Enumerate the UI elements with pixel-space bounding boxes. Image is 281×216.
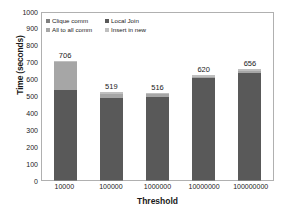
table-row[interactable] — [100, 92, 123, 180]
y-axis-ticks: 10009008007006005004003002001000 — [8, 0, 38, 216]
table-row[interactable] — [192, 75, 215, 180]
bar-segment[interactable] — [238, 73, 261, 180]
y-tick-label: 600 — [12, 76, 38, 83]
x-axis-ticks: 10000100000100000010000000100000000 — [41, 183, 274, 190]
bar-category-slot: 706 — [42, 13, 88, 180]
bar-segment[interactable] — [146, 97, 169, 179]
y-tick-label: 700 — [12, 59, 38, 66]
y-tick-label: 100 — [12, 161, 38, 168]
bar-value-label: 519 — [88, 83, 134, 91]
y-tick-label: 400 — [12, 110, 38, 117]
bar-value-label: 656 — [227, 60, 273, 68]
bar-chart: Time (seconds) 1000900800700600500400300… — [0, 0, 281, 216]
y-tick-label: 500 — [12, 93, 38, 100]
x-tick-label: 100000000 — [227, 183, 274, 190]
bar-category-slot: 519 — [88, 13, 134, 180]
bar-value-label: 706 — [42, 52, 88, 60]
y-tick-label: 1000 — [12, 9, 38, 16]
y-tick-label: 900 — [12, 25, 38, 32]
y-tick-label: 300 — [12, 127, 38, 134]
bar-value-label: 516 — [134, 84, 180, 92]
bar-category-slot: 656 — [227, 13, 273, 180]
y-tick-label: 200 — [12, 144, 38, 151]
bar-value-label: 620 — [181, 66, 227, 74]
bar-segment[interactable] — [192, 78, 215, 179]
bar-category-slot: 620 — [181, 13, 227, 180]
bar-segment[interactable] — [54, 62, 77, 90]
bar-segment[interactable] — [54, 90, 77, 179]
table-row[interactable] — [146, 93, 169, 180]
bar-segment[interactable] — [54, 180, 77, 181]
plot-area: Clique commLocal JoinAll to all commInse… — [41, 12, 274, 181]
x-axis-title: Threshold — [41, 196, 274, 206]
x-tick-label: 100000 — [88, 183, 135, 190]
y-tick-label: 800 — [12, 42, 38, 49]
y-tick-label: 0 — [12, 178, 38, 185]
bar-series-container: 706519516620656 — [42, 13, 273, 180]
x-tick-label: 1000000 — [134, 183, 181, 190]
table-row[interactable] — [238, 69, 261, 180]
x-tick-label: 10000000 — [181, 183, 228, 190]
x-tick-label: 10000 — [41, 183, 88, 190]
table-row[interactable] — [54, 61, 77, 180]
bar-category-slot: 516 — [134, 13, 180, 180]
bar-segment[interactable] — [100, 98, 123, 180]
